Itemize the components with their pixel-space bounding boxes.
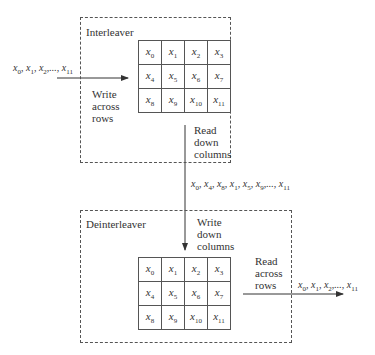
grid-cell: x2 xyxy=(185,41,208,65)
read-down-columns-label: Read down columns xyxy=(194,124,231,160)
input-sequence-label: x0, x1, x2,..., x11 xyxy=(13,62,73,76)
grid-cell: x7 xyxy=(208,282,231,306)
grid-cell: x0 xyxy=(139,41,162,65)
interleaver-title: Interleaver xyxy=(86,26,134,38)
grid-cell: x8 xyxy=(139,89,162,113)
grid-row: x0 x1 x2 x3 xyxy=(139,41,231,65)
interleaver-grid: x0 x1 x2 x3 x4 x5 x6 x7 x8 x9 x10 x11 xyxy=(138,40,231,113)
grid-cell: x7 xyxy=(208,65,231,89)
grid-cell: x5 xyxy=(162,282,185,306)
grid-cell: x9 xyxy=(162,306,185,330)
grid-cell: x3 xyxy=(208,258,231,282)
grid-cell: x4 xyxy=(139,282,162,306)
grid-cell: x11 xyxy=(208,306,231,330)
grid-cell: x8 xyxy=(139,306,162,330)
grid-cell: x1 xyxy=(162,258,185,282)
grid-cell: x6 xyxy=(185,65,208,89)
grid-cell: x11 xyxy=(208,89,231,113)
grid-row: x4 x5 x6 x7 xyxy=(139,282,231,306)
deinterleaver-grid: x0 x1 x2 x3 x4 x5 x6 x7 x8 x9 x10 x11 xyxy=(138,257,231,330)
read-across-rows-label: Read across rows xyxy=(255,255,283,291)
grid-cell: x4 xyxy=(139,65,162,89)
grid-row: x0 x1 x2 x3 xyxy=(139,258,231,282)
grid-cell: x5 xyxy=(162,65,185,89)
grid-cell: x9 xyxy=(162,89,185,113)
grid-cell: x6 xyxy=(185,282,208,306)
write-down-columns-label: Write down columns xyxy=(197,216,234,252)
grid-cell: x10 xyxy=(185,89,208,113)
grid-row: x4 x5 x6 x7 xyxy=(139,65,231,89)
output-sequence-label: x0, x1, x2,..., x11 xyxy=(298,279,358,293)
interleaved-sequence-label: x0, x4, x8, x1, x5, x9,..., x11 xyxy=(191,178,290,192)
grid-cell: x2 xyxy=(185,258,208,282)
grid-row: x8 x9 x10 x11 xyxy=(139,306,231,330)
grid-cell: x0 xyxy=(139,258,162,282)
grid-row: x8 x9 x10 x11 xyxy=(139,89,231,113)
deinterleaver-title: Deinterleaver xyxy=(86,218,146,230)
write-across-rows-label: Write across rows xyxy=(92,88,120,124)
grid-cell: x1 xyxy=(162,41,185,65)
grid-cell: x10 xyxy=(185,306,208,330)
grid-cell: x3 xyxy=(208,41,231,65)
